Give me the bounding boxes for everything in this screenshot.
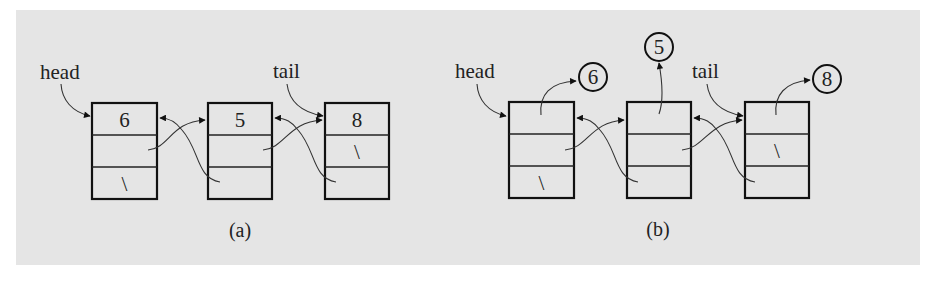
node-element: 5 xyxy=(235,108,246,132)
linked-list-diagram: head tail 6 \ 5 8 \ xyxy=(0,0,944,281)
list-node: 8 \ xyxy=(325,103,389,199)
element-value: 8 xyxy=(822,67,833,91)
tail-pointer-arrow xyxy=(287,84,323,116)
tail-pointer-arrow xyxy=(707,84,743,116)
list-node: \ xyxy=(745,102,809,198)
node-element: 8 xyxy=(352,108,363,132)
element-pointer-arrow xyxy=(776,80,810,115)
node-next-null: \ xyxy=(774,139,780,163)
element-value: 6 xyxy=(588,65,599,89)
panel-b: head tail 6 5 8 \ xyxy=(455,33,841,241)
panel-caption: (b) xyxy=(646,218,669,241)
head-label: head xyxy=(40,60,80,84)
element-object: 8 xyxy=(813,65,841,93)
prev-pointer-arrow xyxy=(275,118,336,182)
list-node: 5 xyxy=(208,103,272,199)
tail-label: tail xyxy=(273,59,300,83)
head-label: head xyxy=(455,59,495,83)
node-prev-null: \ xyxy=(122,172,128,196)
node-next-null: \ xyxy=(354,140,360,164)
element-object: 5 xyxy=(645,33,673,61)
element-pointer-arrow xyxy=(541,81,576,115)
list-node: \ xyxy=(509,102,574,198)
element-object: 6 xyxy=(579,63,607,91)
panel-caption: (a) xyxy=(229,219,251,242)
list-node: 6 \ xyxy=(92,103,157,199)
node-prev-null: \ xyxy=(539,171,545,195)
element-value: 5 xyxy=(654,35,665,59)
prev-pointer-arrow xyxy=(577,118,638,182)
head-pointer-arrow xyxy=(477,84,506,116)
panel-a: head tail 6 \ 5 8 \ xyxy=(40,59,389,242)
prev-pointer-arrow xyxy=(160,118,220,182)
tail-label: tail xyxy=(692,59,719,83)
list-node xyxy=(627,102,691,198)
head-pointer-arrow xyxy=(61,84,90,116)
node-element: 6 xyxy=(119,108,130,132)
element-pointer-arrow xyxy=(659,63,662,114)
